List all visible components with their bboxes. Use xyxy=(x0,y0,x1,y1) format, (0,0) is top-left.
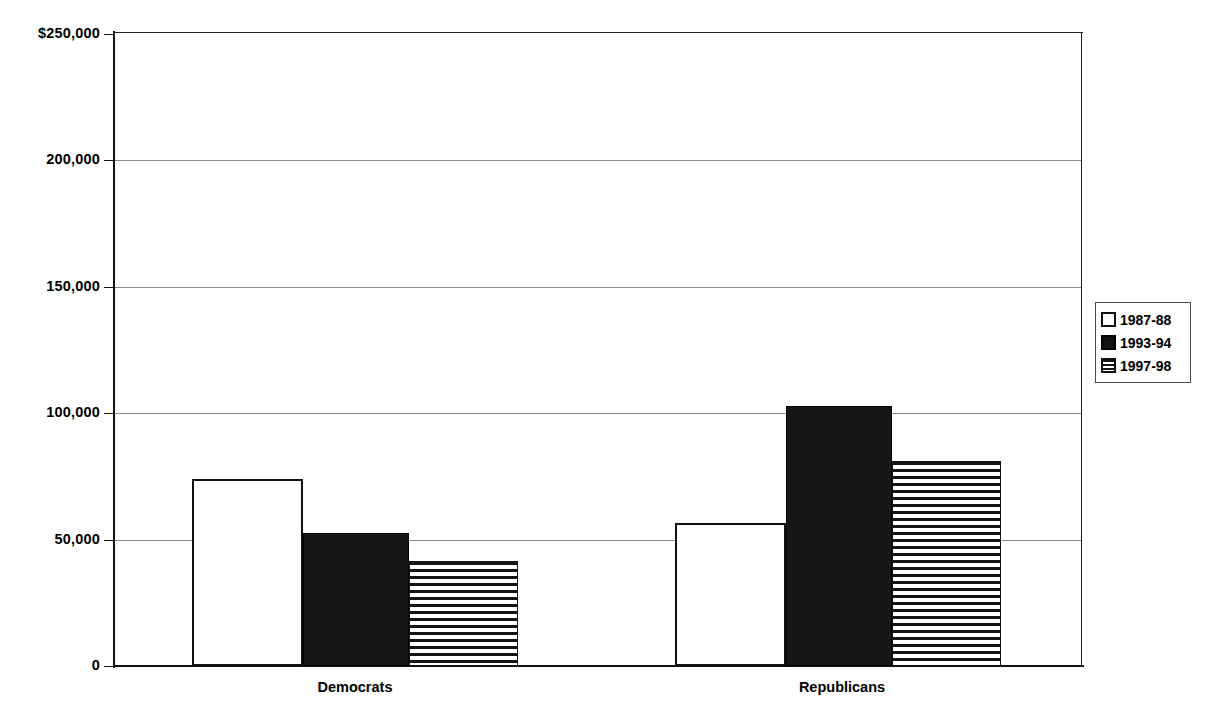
y-axis-tick-label: 150,000 xyxy=(0,279,101,295)
y-axis-tick-label: $250,000 xyxy=(0,26,101,42)
bar-chart: $250,000200,000150,000100,00050,0000 Dem… xyxy=(0,0,1213,716)
y-axis-tick-label-text: 0 xyxy=(0,658,100,673)
x-axis-category-label: Democrats xyxy=(225,680,485,695)
gridline xyxy=(113,160,1082,161)
plot-frame-right xyxy=(1081,32,1082,667)
y-axis-tick-label-text: 150,000 xyxy=(0,279,100,294)
legend-item[interactable]: 1987-88 xyxy=(1101,308,1186,331)
bar-republicans-1987-88 xyxy=(675,523,786,666)
bar-republicans-1997-98 xyxy=(892,461,1001,666)
y-axis-line xyxy=(113,31,115,668)
y-axis-tick-label-text: 100,000 xyxy=(0,405,100,420)
bar-democrats-1993-94 xyxy=(303,533,409,666)
legend: 1987-88 1993-94 1997-98 xyxy=(1095,302,1191,383)
legend-item[interactable]: 1997-98 xyxy=(1101,354,1186,377)
legend-item[interactable]: 1993-94 xyxy=(1101,331,1186,354)
y-axis-tick-label-text: $250,000 xyxy=(0,26,100,41)
y-axis-tick-label-text: 200,000 xyxy=(0,152,100,167)
bar-democrats-1987-88 xyxy=(192,479,303,666)
legend-swatch-empty-icon xyxy=(1101,312,1116,327)
legend-item-label: 1993-94 xyxy=(1120,336,1171,350)
gridline xyxy=(113,287,1082,288)
legend-item-label: 1997-98 xyxy=(1120,359,1171,373)
legend-swatch-striped-icon xyxy=(1101,358,1116,373)
bar-democrats-1997-98 xyxy=(409,561,518,666)
y-axis-tick-label-text: 50,000 xyxy=(0,532,100,547)
bar-republicans-1993-94 xyxy=(786,406,892,666)
y-axis-tick-label: 100,000 xyxy=(0,405,101,421)
legend-swatch-solid-icon xyxy=(1101,335,1116,350)
legend-item-label: 1987-88 xyxy=(1120,313,1171,327)
y-axis-tick-label: 50,000 xyxy=(0,532,101,548)
y-axis-tick-label: 200,000 xyxy=(0,152,101,168)
x-axis-category-label: Republicans xyxy=(712,680,972,695)
gridline xyxy=(113,413,1082,414)
plot-frame-top xyxy=(113,32,1083,33)
y-axis-tick-label: 0 xyxy=(0,658,101,674)
